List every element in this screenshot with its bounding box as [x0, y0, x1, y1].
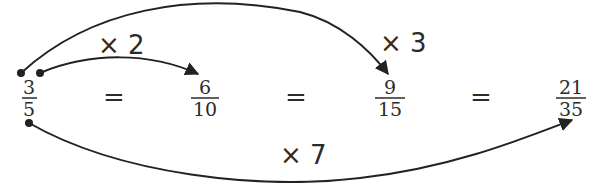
numerator: 3 [23, 76, 35, 98]
arrow-times-3 [21, 3, 388, 74]
start-dot [36, 69, 44, 77]
denominator: 5 [23, 98, 35, 120]
fraction: 6 10 [191, 76, 219, 120]
fraction: 21 35 [556, 76, 586, 120]
numerator: 9 [384, 76, 396, 98]
denominator: 15 [378, 98, 402, 120]
multiplier-label: × 2 [98, 30, 145, 60]
equals-sign: = [285, 82, 307, 112]
start-dot [25, 119, 33, 127]
denominator: 35 [559, 98, 583, 120]
multiplier-label: × 7 [280, 140, 327, 170]
fraction: 9 15 [375, 76, 405, 120]
equals-sign: = [470, 82, 492, 112]
equals-sign: = [103, 82, 125, 112]
numerator: 21 [559, 76, 583, 98]
numerator: 6 [199, 76, 211, 98]
equivalent-fractions-diagram: × 2 × 3 × 7 3 5 = 6 10 = 9 15 = 21 [0, 0, 605, 183]
fraction: 3 5 [22, 76, 37, 120]
multiplier-label: × 3 [380, 28, 427, 58]
denominator: 10 [193, 98, 217, 120]
